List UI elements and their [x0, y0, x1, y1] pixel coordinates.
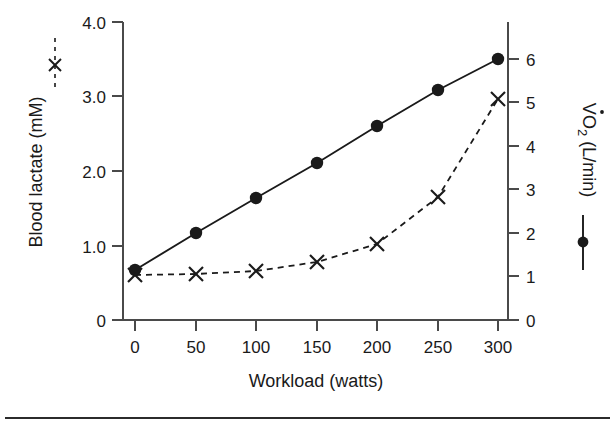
legend-circle-dot: [578, 237, 589, 248]
left-tick-label-1: 1.0: [82, 238, 106, 257]
x-tick-label-150: 150: [303, 338, 331, 357]
y2-axis-title-text: VO2 (L/min): [575, 103, 599, 197]
x-tick-label-250: 250: [424, 338, 452, 357]
solid-circle-marker-icon: [578, 215, 589, 270]
y2-title-o: O: [579, 115, 599, 129]
right-tick-label-3: 3: [526, 181, 535, 200]
vo2-point-200: [371, 120, 383, 132]
x-tick-label-200: 200: [363, 338, 391, 357]
bottom-axis-ticks: [135, 320, 498, 331]
left-tick-label-4: 4.0: [82, 14, 106, 33]
y2-title-subscript: 2: [575, 129, 590, 136]
x-axis-title: Workload (watts): [249, 371, 384, 391]
right-tick-label-2: 2: [526, 225, 535, 244]
vo2-point-150: [311, 157, 323, 169]
axis-spines: [123, 22, 508, 320]
dashed-x-marker-icon: [49, 38, 61, 92]
x-tick-label-50: 50: [187, 338, 206, 357]
series-lactate: [128, 92, 505, 282]
vo2-point-250: [432, 84, 444, 96]
vo2-point-300: [492, 53, 504, 65]
bottom-divider-rule: [5, 417, 610, 419]
lactate-markers: [128, 92, 505, 282]
y2-title-units: (L/min): [579, 136, 599, 197]
right-tick-label-6: 6: [526, 51, 535, 70]
x-tick-label-300: 300: [484, 338, 512, 357]
right-tick-label-5: 5: [526, 94, 535, 113]
x-tick-label-0: 0: [130, 338, 139, 357]
right-tick-label-4: 4: [526, 138, 535, 157]
lactate-point-200: [370, 237, 384, 251]
vo2-point-100: [250, 192, 262, 204]
x-tick-label-100: 100: [242, 338, 270, 357]
right-tick-label-1: 1: [526, 268, 535, 287]
vo2-point-50: [190, 227, 202, 239]
right-axis-tick-labels: 6 5 4 3 2 1 0: [526, 51, 535, 331]
y2-axis-title: VO2 (L/min): [575, 103, 604, 197]
lactate-point-250: [431, 190, 445, 204]
right-axis-ticks: [508, 59, 519, 320]
v-dot-icon: [600, 110, 604, 114]
bottom-axis-tick-labels: 0 50 100 150 200 250 300: [130, 338, 512, 357]
lactate-point-300: [491, 92, 505, 106]
y-axis-title: Blood lactate (mM): [26, 96, 46, 247]
line-chart: 4.0 3.0 2.0 1.0 0 6 5 4 3 2 1 0: [0, 0, 615, 428]
y2-title-v: V: [579, 103, 599, 115]
left-axis-ticks: [112, 22, 123, 320]
lactate-line: [135, 99, 498, 275]
left-tick-label-0: 0: [97, 312, 106, 331]
series-vo2: [129, 53, 504, 276]
right-tick-label-0: 0: [526, 312, 535, 331]
left-tick-label-3: 3.0: [82, 88, 106, 107]
left-tick-label-2: 2.0: [82, 163, 106, 182]
figure-container: 4.0 3.0 2.0 1.0 0 6 5 4 3 2 1 0: [0, 0, 615, 428]
left-axis-tick-labels: 4.0 3.0 2.0 1.0 0: [82, 14, 106, 331]
